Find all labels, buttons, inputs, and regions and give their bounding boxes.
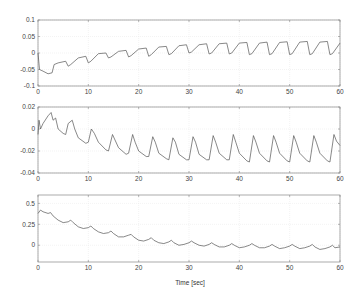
y-tick-label: -0.05: [20, 66, 35, 73]
y-tick-label: 0: [31, 49, 35, 56]
x-tick-label: 60: [336, 88, 344, 95]
y-tick-label: -0.1: [24, 82, 36, 89]
x-axis-label: Time [sec]: [0, 279, 361, 286]
y-tick-label: 0.02: [22, 103, 35, 110]
y-tick-label: -0.02: [20, 147, 35, 154]
y-tick-label: -0.04: [20, 169, 35, 176]
x-tick-label: 30: [185, 88, 193, 95]
x-tick-label: 60: [336, 264, 344, 271]
x-tick-label: 40: [236, 88, 244, 95]
subplot-1: 0102030405060-0.1-0.0500.050.1: [20, 16, 344, 95]
x-tick-label: 10: [85, 175, 93, 182]
x-tick-label: 20: [135, 264, 143, 271]
subplot-3: 010203040506000.250.5: [22, 195, 344, 271]
x-tick-label: 0: [36, 175, 40, 182]
x-tick-label: 20: [135, 88, 143, 95]
x-tick-label: 40: [236, 264, 244, 271]
x-tick-label: 20: [135, 175, 143, 182]
x-tick-label: 30: [185, 175, 193, 182]
figure: 0102030405060-0.1-0.0500.050.10102030405…: [0, 0, 361, 301]
x-tick-label: 0: [36, 88, 40, 95]
y-tick-label: 0.1: [26, 16, 35, 23]
x-tick-label: 10: [85, 88, 93, 95]
y-tick-label: 0.25: [22, 221, 35, 228]
subplot-2: 0102030405060-0.04-0.0200.02: [20, 103, 344, 182]
x-tick-label: 50: [286, 88, 294, 95]
y-tick-label: 0: [31, 241, 35, 248]
x-tick-label: 50: [286, 264, 294, 271]
y-tick-label: 0.05: [22, 33, 35, 40]
y-tick-label: 0: [31, 125, 35, 132]
x-tick-label: 60: [336, 175, 344, 182]
x-tick-label: 0: [36, 264, 40, 271]
x-tick-label: 40: [236, 175, 244, 182]
x-tick-label: 10: [85, 264, 93, 271]
y-tick-label: 0.5: [26, 200, 35, 207]
x-tick-label: 30: [185, 264, 193, 271]
x-tick-label: 50: [286, 175, 294, 182]
